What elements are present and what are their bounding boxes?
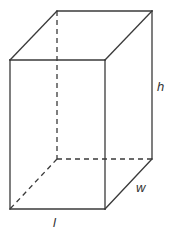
hidden-bottom-left-depth-edge — [10, 159, 57, 209]
prism-diagram: h w l — [0, 0, 172, 235]
top-left-depth-edge — [10, 11, 57, 60]
length-label: l — [53, 215, 57, 230]
height-label: h — [157, 79, 164, 94]
width-label: w — [136, 180, 147, 195]
top-right-depth-edge — [105, 11, 152, 60]
